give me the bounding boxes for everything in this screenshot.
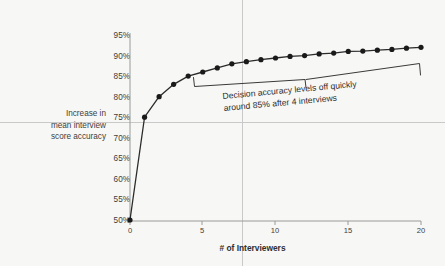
data-point — [127, 217, 132, 222]
x-tick-label-15: 15 — [336, 226, 360, 235]
x-tick-label-20: 20 — [409, 226, 433, 235]
data-point — [331, 50, 336, 55]
data-point — [200, 69, 205, 74]
x-axis-title: # of Interviewers — [0, 243, 445, 253]
data-point — [215, 65, 220, 70]
data-point — [375, 48, 380, 53]
data-point — [244, 59, 249, 64]
series-line — [130, 47, 421, 220]
series-markers — [127, 45, 423, 223]
data-point — [186, 74, 191, 79]
data-point — [302, 53, 307, 58]
y-axis-ticks — [126, 35, 130, 220]
data-point — [171, 82, 176, 87]
x-tick-label-10: 10 — [263, 226, 287, 235]
data-point — [404, 46, 409, 51]
x-tick-label-0: 0 — [118, 226, 142, 235]
data-point — [142, 115, 147, 120]
x-tick-label-5: 5 — [190, 226, 214, 235]
x-axis-title-text: # of Interviewers — [219, 243, 285, 253]
data-point — [273, 55, 278, 60]
data-point — [317, 51, 322, 56]
data-point — [258, 57, 263, 62]
data-point — [360, 48, 365, 53]
data-point — [389, 47, 394, 52]
data-point — [346, 49, 351, 54]
chart-screenshot: Increase in mean interview score accurac… — [0, 0, 445, 266]
data-point — [229, 61, 234, 66]
data-point — [287, 54, 292, 59]
plot-area — [0, 0, 445, 266]
x-axis-ticks — [130, 221, 421, 225]
data-point — [157, 94, 162, 99]
data-point — [418, 45, 423, 50]
